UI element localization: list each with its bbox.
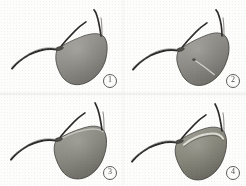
specimen-upper-horn-shade-3: [103, 111, 104, 130]
specimen-lower-stalk-2: [133, 50, 179, 70]
specimen-panel-2[interactable]: 2: [123, 0, 246, 93]
specimen-upper-horn-2: [216, 10, 222, 36]
panel-index-2: 2: [226, 74, 240, 88]
specimen-upper-horn-1: [94, 10, 101, 36]
specimen-lower-stalk-1: [12, 49, 58, 69]
figure-plate: 1: [0, 0, 246, 185]
panel-index-3: 3: [103, 166, 117, 180]
specimen-upper-horn-shade-4: [223, 112, 224, 131]
specimen-blade-sheen-2: [177, 33, 229, 86]
panel-index-4: 4: [226, 166, 240, 180]
specimen-panel-4[interactable]: 4: [123, 93, 246, 186]
specimen-lower-stalk-highlight-4: [132, 140, 178, 159]
panel-grid: 1: [0, 0, 246, 185]
specimen-lower-stalk-4: [132, 141, 178, 161]
specimen-panel-1[interactable]: 1: [0, 0, 123, 93]
specimen-lower-stalk-highlight-2: [133, 49, 179, 68]
specimen-panel-3[interactable]: 3: [0, 93, 123, 186]
specimen-lower-stalk-highlight-3: [11, 138, 57, 157]
specimen-lower-stalk-3: [11, 139, 57, 159]
panel-index-1: 1: [103, 74, 117, 88]
specimen-ridge-node-2: [192, 58, 196, 61]
specimen-upper-horn-4: [215, 103, 222, 130]
specimen-lower-stalk-highlight-1: [12, 48, 58, 67]
specimen-upper-horn-3: [95, 102, 102, 129]
specimen-blade-sheen-1: [56, 34, 107, 85]
